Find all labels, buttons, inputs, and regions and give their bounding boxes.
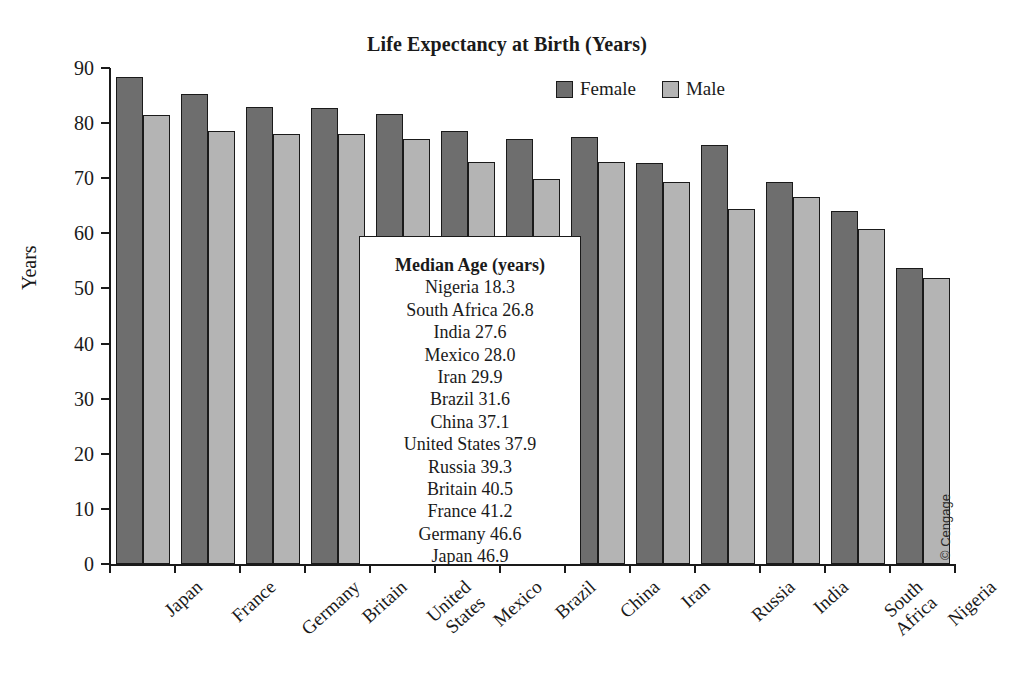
bar-group xyxy=(695,68,760,564)
median-age-inset: Median Age (years) Nigeria 18.3South Afr… xyxy=(359,236,581,565)
bar-male xyxy=(663,182,690,564)
x-axis-category-label: Brazil xyxy=(550,576,599,623)
y-axis-tick-label: 80 xyxy=(48,113,94,133)
x-axis-category-label: Japan xyxy=(160,576,206,621)
copyright-credit: © Cengage xyxy=(938,494,953,560)
bar-male xyxy=(273,134,300,564)
bar-group xyxy=(760,68,825,564)
y-axis-tick xyxy=(101,122,110,124)
x-axis-category-label: UnitedStates xyxy=(422,576,489,642)
x-axis-label-line: France xyxy=(227,576,279,626)
bar-group xyxy=(110,68,175,564)
bar-group xyxy=(175,68,240,564)
x-axis-category-label: France xyxy=(227,576,279,626)
median-age-row: Japan 46.9 xyxy=(360,545,580,567)
bar-male xyxy=(793,197,820,564)
x-axis-label-line: Iran xyxy=(676,576,713,612)
x-axis-label-line: China xyxy=(615,576,663,622)
bar-female xyxy=(896,268,923,564)
x-axis-label-line: Britain xyxy=(357,576,410,627)
life-expectancy-chart: Life Expectancy at Birth (Years) Female … xyxy=(0,0,1014,678)
y-axis-tick xyxy=(101,232,110,234)
bar-group xyxy=(825,68,890,564)
median-age-row: United States 37.9 xyxy=(360,433,580,455)
y-axis-tick xyxy=(101,508,110,510)
chart-title: Life Expectancy at Birth (Years) xyxy=(0,33,1014,56)
y-axis-tick xyxy=(101,453,110,455)
bar-female xyxy=(831,211,858,564)
y-axis-tick xyxy=(101,398,110,400)
y-axis-tick-label: 70 xyxy=(48,168,94,188)
x-axis-category-label: SouthAfrica xyxy=(876,576,940,640)
median-age-row: Britain 40.5 xyxy=(360,478,580,500)
x-axis-label-line: Nigeria xyxy=(943,576,999,630)
bar-male xyxy=(858,229,885,564)
x-axis-label-line: India xyxy=(809,576,852,618)
bar-group xyxy=(890,68,955,564)
bar-male xyxy=(728,209,755,564)
x-axis-label-line: Russia xyxy=(747,576,799,626)
x-axis-category-labels: JapanFranceGermanyBritainUnitedStatesMex… xyxy=(110,572,990,678)
x-axis-category-label: Germany xyxy=(297,576,364,639)
median-age-row: Russia 39.3 xyxy=(360,456,580,478)
y-axis-tick-label: 50 xyxy=(48,278,94,298)
bar-female xyxy=(636,163,663,564)
x-axis-category-label: Russia xyxy=(747,576,799,626)
y-axis-tick-label: 0 xyxy=(48,554,94,574)
x-axis-category-label: Britain xyxy=(357,576,410,627)
y-axis-tick xyxy=(101,287,110,289)
bar-group xyxy=(630,68,695,564)
x-axis-label-line: Mexico xyxy=(488,576,545,630)
x-axis-category-label: Nigeria xyxy=(943,576,999,630)
median-age-inset-title: Median Age (years) xyxy=(360,254,580,276)
median-age-row: South Africa 26.8 xyxy=(360,299,580,321)
median-age-row: Iran 29.9 xyxy=(360,366,580,388)
x-axis-label-line: Japan xyxy=(160,576,206,621)
y-axis-tick-label: 10 xyxy=(48,499,94,519)
x-axis-label-line: Germany xyxy=(297,576,364,639)
median-age-row: Nigeria 18.3 xyxy=(360,276,580,298)
median-age-row: India 27.6 xyxy=(360,321,580,343)
y-axis-tick xyxy=(101,67,110,69)
x-axis-category-label: China xyxy=(615,576,663,622)
bar-female xyxy=(311,108,338,564)
y-axis-tick xyxy=(101,343,110,345)
x-axis-category-label: Iran xyxy=(676,576,713,612)
bar-male xyxy=(598,162,625,564)
median-age-row: China 37.1 xyxy=(360,411,580,433)
median-age-inset-rows: Nigeria 18.3South Africa 26.8India 27.6M… xyxy=(360,276,580,567)
y-axis-tick xyxy=(101,177,110,179)
x-axis-category-label: Mexico xyxy=(488,576,545,630)
y-axis-tick-label: 30 xyxy=(48,389,94,409)
bar-male xyxy=(208,131,235,564)
x-axis-label-line: Brazil xyxy=(550,576,599,623)
bar-female xyxy=(246,107,273,564)
y-axis-tick-label: 90 xyxy=(48,58,94,78)
y-axis-tick-label: 60 xyxy=(48,223,94,243)
y-axis-tick-label: 20 xyxy=(48,444,94,464)
median-age-row: France 41.2 xyxy=(360,500,580,522)
median-age-row: Mexico 28.0 xyxy=(360,344,580,366)
bar-female xyxy=(701,145,728,564)
y-axis-tick-label: 40 xyxy=(48,334,94,354)
bar-female xyxy=(766,182,793,564)
median-age-row: Germany 46.6 xyxy=(360,523,580,545)
bar-group xyxy=(240,68,305,564)
bar-female xyxy=(116,77,143,564)
bar-female xyxy=(181,94,208,564)
median-age-row: Brazil 31.6 xyxy=(360,388,580,410)
bar-male xyxy=(143,115,170,564)
x-axis-category-label: India xyxy=(809,576,852,618)
y-axis-title: Years xyxy=(18,245,41,290)
